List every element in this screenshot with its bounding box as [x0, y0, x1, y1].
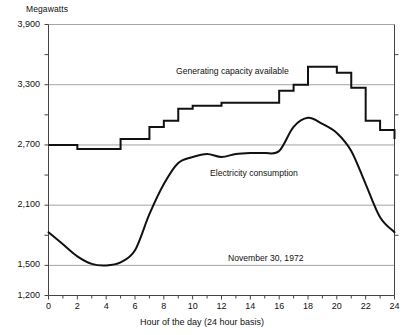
y-tick-label: 2,100 — [0, 199, 40, 209]
gridlines-group — [49, 25, 395, 266]
y-tick-label: 2,700 — [0, 139, 40, 149]
electricity-consumption-label: Electricity consumption — [210, 168, 298, 178]
generating-capacity-label: Generating capacity available — [176, 66, 289, 76]
x-tick-label: 16 — [267, 301, 291, 311]
x-tick-label: 2 — [65, 301, 89, 311]
x-tick-label: 24 — [383, 301, 404, 311]
x-tick-label: 0 — [37, 301, 61, 311]
chart-figure: Megawatts 1,2001,5002,1002,7003,3003,900… — [0, 0, 404, 335]
date-annotation: November 30, 1972 — [228, 253, 303, 263]
x-tick-label: 4 — [94, 301, 118, 311]
x-tick-label: 22 — [354, 301, 378, 311]
x-tick-label: 14 — [238, 301, 262, 311]
electricity-consumption-line — [49, 118, 395, 266]
x-axis-title: Hour of the day (24 hour basis) — [0, 317, 404, 327]
generating-capacity-line — [49, 67, 395, 149]
y-tick-label: 1,200 — [0, 290, 40, 300]
x-tick-label: 10 — [181, 301, 205, 311]
y-tick-label: 3,300 — [0, 79, 40, 89]
x-tick-label: 18 — [296, 301, 320, 311]
x-tick-label: 6 — [123, 301, 147, 311]
x-tick-label: 12 — [210, 301, 234, 311]
x-tick-label: 8 — [152, 301, 176, 311]
chart-canvas — [0, 0, 404, 335]
y-tick-label: 1,500 — [0, 259, 40, 269]
y-tick-label: 3,900 — [0, 19, 40, 29]
x-tick-label: 20 — [325, 301, 349, 311]
